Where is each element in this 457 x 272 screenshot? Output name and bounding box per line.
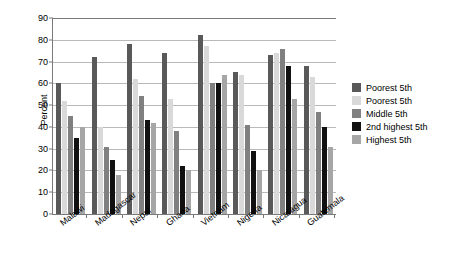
legend: Poorest 5thPoorest 5thMiddle 5th2nd high… [352,82,428,145]
legend-label: Middle 5th [366,109,408,119]
x-axis-labels: MalawiMadagascarNepalGhanaVietnamNigeria… [52,214,335,272]
plot-area: 0102030405060708090 [52,18,336,215]
y-tick-label: 80 [38,35,48,45]
bar [304,66,309,214]
bar [280,49,285,215]
legend-swatch [352,96,361,105]
legend-label: Poorest 5th [366,96,412,106]
bar [62,101,67,214]
y-tick-label: 90 [38,13,48,23]
bar [68,116,73,214]
legend-item: Poorest 5th [352,82,428,93]
y-tick-label: 10 [38,187,48,197]
bar [92,57,97,214]
bar [162,53,167,214]
y-tick-label: 60 [38,78,48,88]
y-tick-label: 20 [38,165,48,175]
bar [322,127,327,214]
bar [204,46,209,214]
bar [145,120,150,214]
legend-item: 2nd highest 5th [352,121,428,132]
legend-swatch [352,109,361,118]
bar-group [301,18,336,214]
legend-label: 2nd highest 5th [366,122,428,132]
bar [310,77,315,214]
legend-swatch [352,122,361,131]
bar-group [53,18,88,214]
y-tick-label: 0 [43,209,48,219]
bar [274,53,279,214]
bar [80,127,85,214]
bar-group [124,18,159,214]
legend-label: Poorest 5th [366,83,412,93]
bar [104,147,109,215]
bar [139,96,144,214]
bar [216,83,221,214]
bar [222,75,227,214]
bar-chart: Percent 0102030405060708090 MalawiMadaga… [0,0,457,272]
legend-swatch [352,135,361,144]
bar [286,66,291,214]
legend-item: Poorest 5th [352,95,428,106]
bar [245,125,250,214]
bar [316,112,321,214]
bar [210,83,215,214]
bar [174,131,179,214]
bar-group [230,18,265,214]
bar-group [88,18,123,214]
bar [239,75,244,214]
bar [198,35,203,214]
bar-group [159,18,194,214]
bars-layer [53,18,336,214]
y-tick-label: 40 [38,122,48,132]
legend-swatch [352,83,361,92]
legend-item: Highest 5th [352,134,428,145]
bar [98,127,103,214]
y-tick-label: 50 [38,100,48,110]
bar [168,99,173,214]
bar-group [265,18,300,214]
bar [268,55,273,214]
bar [56,83,61,214]
legend-label: Highest 5th [366,135,412,145]
legend-item: Middle 5th [352,108,428,119]
y-tick-label: 70 [38,57,48,67]
bar [292,99,297,214]
bar [151,123,156,214]
bar-group [195,18,230,214]
bar [233,72,238,214]
y-tick-label: 30 [38,144,48,154]
